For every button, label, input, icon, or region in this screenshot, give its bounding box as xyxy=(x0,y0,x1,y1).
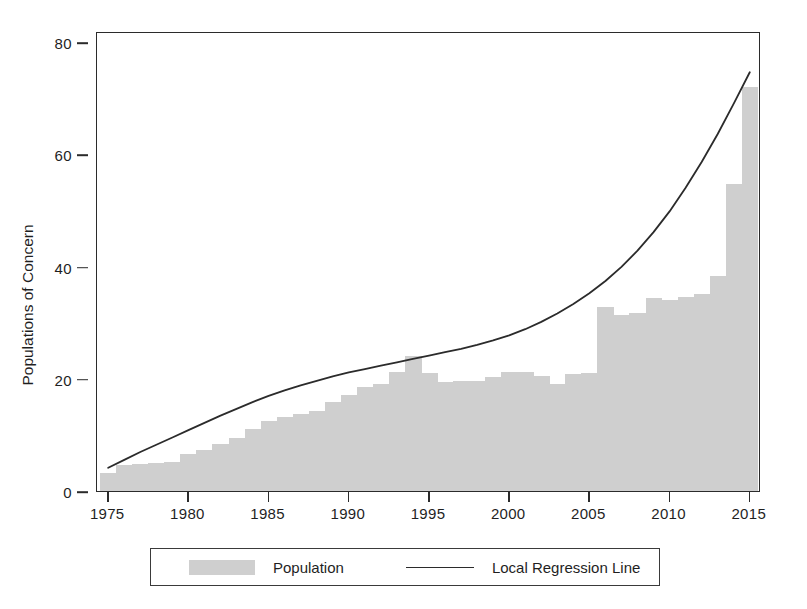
bar xyxy=(726,184,743,491)
legend-swatch-icon xyxy=(189,560,255,575)
bar xyxy=(678,297,695,491)
bar xyxy=(261,421,278,491)
bar xyxy=(100,473,117,491)
bar xyxy=(180,454,197,491)
chart-figure: Populations of Concern 020406080 1975198… xyxy=(0,0,807,609)
bar xyxy=(373,384,390,491)
bar xyxy=(116,465,133,491)
x-tick-label: 2015 xyxy=(731,505,766,522)
x-tick-mark xyxy=(348,492,350,502)
bar xyxy=(565,374,582,491)
bar xyxy=(293,414,310,491)
x-tick-label: 2010 xyxy=(651,505,686,522)
bar xyxy=(212,444,229,491)
x-axis: 197519801985199019952000200520102015 xyxy=(0,492,807,536)
legend-label-population: Population xyxy=(273,559,344,576)
bar xyxy=(405,356,422,491)
bar xyxy=(485,377,502,491)
x-tick-mark xyxy=(268,492,270,502)
y-tick-label: 20 xyxy=(55,371,73,388)
legend-item-population: Population xyxy=(189,559,344,576)
bar xyxy=(277,417,294,491)
y-tick-label: 80 xyxy=(55,35,73,52)
x-tick-mark xyxy=(187,492,189,502)
y-tick-label: 40 xyxy=(55,259,73,276)
bar xyxy=(517,372,534,491)
x-tick-label: 1975 xyxy=(90,505,125,522)
bar xyxy=(325,402,342,491)
x-tick-mark xyxy=(428,492,430,502)
bar xyxy=(421,373,438,491)
x-tick-mark xyxy=(588,492,590,502)
chart-legend: Population Local Regression Line xyxy=(150,548,660,586)
y-axis-title: Populations of Concern xyxy=(19,155,37,455)
bar xyxy=(357,387,374,491)
x-tick-label: 2005 xyxy=(571,505,606,522)
bar xyxy=(437,382,454,491)
x-tick-mark xyxy=(107,492,109,502)
bar xyxy=(469,381,486,492)
bar xyxy=(196,450,213,492)
y-tick-mark xyxy=(77,42,88,44)
bar xyxy=(629,313,646,491)
x-tick-mark xyxy=(669,492,671,502)
x-tick-label: 2000 xyxy=(491,505,526,522)
x-tick-mark xyxy=(508,492,510,502)
bar xyxy=(501,372,518,491)
bar xyxy=(533,376,550,491)
bar xyxy=(245,429,262,491)
bar xyxy=(132,464,149,491)
bar xyxy=(453,381,470,491)
bar xyxy=(646,298,663,491)
bar xyxy=(309,411,326,491)
bar xyxy=(694,294,711,491)
bar xyxy=(148,463,165,491)
x-tick-label: 1985 xyxy=(250,505,285,522)
legend-line-icon xyxy=(406,567,474,568)
bar xyxy=(389,372,406,491)
y-tick-mark xyxy=(77,267,88,269)
x-tick-label: 1995 xyxy=(411,505,446,522)
plot-inner xyxy=(97,33,759,491)
bar xyxy=(662,300,679,491)
bar xyxy=(549,384,566,491)
bar xyxy=(341,395,358,491)
bar xyxy=(613,315,630,491)
y-tick-mark xyxy=(77,379,88,381)
legend-item-regression: Local Regression Line xyxy=(406,559,640,576)
bar xyxy=(164,462,181,491)
bar xyxy=(597,307,614,491)
y-tick-label: 60 xyxy=(55,147,73,164)
legend-label-regression: Local Regression Line xyxy=(492,559,640,576)
plot-area xyxy=(96,32,760,492)
y-tick-mark xyxy=(77,155,88,157)
bar xyxy=(229,438,246,491)
x-tick-label: 1990 xyxy=(331,505,366,522)
bar xyxy=(710,276,727,491)
x-tick-mark xyxy=(749,492,751,502)
bar xyxy=(742,87,759,491)
bar xyxy=(581,373,598,491)
x-tick-label: 1980 xyxy=(170,505,205,522)
